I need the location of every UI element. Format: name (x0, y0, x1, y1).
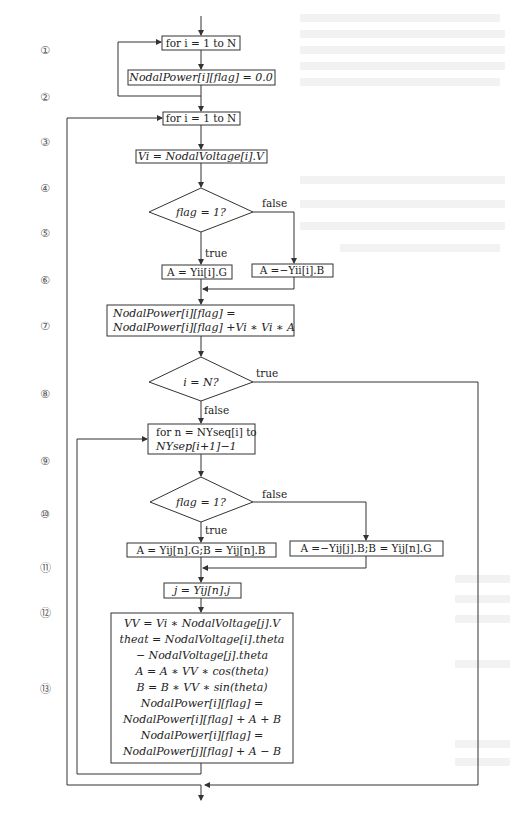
step-11: ⑪ (40, 562, 51, 575)
loop1-label: for i = 1 to N (166, 37, 236, 49)
step-1: ① (40, 44, 50, 57)
node-j-assign: j = Yij[n].j (164, 583, 241, 598)
node-loop2: for i = 1 to N (163, 112, 240, 125)
node-loop3: for n = NYseq[i] to NYsep[i+1]−1 (148, 424, 257, 454)
node-vi: Vi = NodalVoltage[i].V (136, 150, 267, 163)
node-a-true: A = Yii[i].G (162, 265, 232, 279)
node-ab-true: A = Yij[n].G;B = Yij[n].B (127, 543, 276, 557)
calc-line-2: theat = NodalVoltage[i].theta (120, 633, 285, 646)
step-10: ⑩ (40, 508, 50, 521)
cond1-label: flag = 1? (175, 206, 226, 219)
node-ab-false: A =−Yij[j].B;B = Yij[n].G (290, 541, 443, 556)
cond3-label: flag = 1? (175, 496, 226, 509)
calc-line-4: A = A ∗ VV ∗ cos(theta) (135, 665, 269, 678)
node-loop1: for i = 1 to N (162, 36, 240, 50)
step-4: ④ (40, 182, 50, 195)
acc-line2: NodalPower[i][flag] +Vi ∗ Vi ∗ A (112, 321, 295, 334)
calc-line-7: NodalPower[i][flag] + A + B (122, 713, 281, 726)
j-assign-label: j = Yij[n].j (171, 584, 231, 597)
node-a-false: A =−Yii[i].B (252, 264, 333, 277)
step-5: ⑤ (40, 227, 50, 240)
decision-cond3: flag = 1? false true (150, 477, 287, 536)
cond2-true-label: true (256, 367, 278, 379)
init-label: NodalPower[i][flag] = 0.0 (128, 71, 272, 84)
loop3-line2: NYsep[i+1]−1 (155, 440, 237, 453)
cond1-false-label: false (262, 197, 287, 209)
cond3-false-label: false (262, 488, 287, 500)
node-calc: VV = Vi ∗ NodalVoltage[j].V theat = Noda… (111, 613, 293, 763)
ab-true-label: A = Yij[n].G;B = Yij[n].B (135, 544, 265, 556)
ab-false-label: A =−Yij[j].B;B = Yij[n].G (299, 542, 431, 554)
flowchart: ① ② ③ ④ ⑤ ⑥ ⑦ ⑧ ⑨ ⑩ ⑪ ⑫ ⑬ (0, 0, 514, 813)
acc-line1: NodalPower[i][flag] = (112, 307, 235, 320)
calc-line-9: NodalPower[j][flag] + A − B (122, 745, 281, 758)
step-8: ⑧ (40, 388, 50, 401)
cond3-true-label: true (205, 524, 227, 536)
step-13: ⑬ (40, 683, 51, 696)
cond2-false-label: false (204, 404, 229, 416)
step-6: ⑥ (40, 274, 50, 287)
step-9: ⑨ (40, 455, 50, 468)
calc-line-3: − NodalVoltage[j].theta (136, 649, 268, 662)
calc-line-5: B = B ∗ VV ∗ sin(theta) (135, 681, 267, 694)
cond2-label: i = N? (183, 376, 218, 389)
a-true-label: A = Yii[i].G (166, 266, 227, 278)
calc-line-8: NodalPower[i][flag] = (140, 729, 263, 742)
node-accumulate: NodalPower[i][flag] = NodalPower[i][flag… (107, 305, 295, 336)
step-7: ⑦ (40, 320, 50, 333)
step-2: ② (40, 91, 50, 104)
a-false-label: A =−Yii[i].B (259, 264, 325, 276)
node-init: NodalPower[i][flag] = 0.0 (128, 70, 275, 85)
loop2-label: for i = 1 to N (166, 112, 236, 124)
loop3-line1: for n = NYseq[i] to (156, 426, 257, 438)
step-12: ⑫ (40, 607, 51, 620)
calc-line-6: NodalPower[i][flag] = (140, 697, 263, 710)
decision-cond2: i = N? true false (149, 357, 278, 416)
calc-line-1: VV = Vi ∗ NodalVoltage[j].V (124, 617, 281, 630)
cond1-true-label: true (205, 247, 227, 259)
decision-cond1: flag = 1? false true (149, 188, 287, 259)
step-numbers: ① ② ③ ④ ⑤ ⑥ ⑦ ⑧ ⑨ ⑩ ⑪ ⑫ ⑬ (40, 44, 51, 696)
step-3: ③ (40, 136, 50, 149)
vi-label: Vi = NodalVoltage[i].V (138, 150, 265, 163)
